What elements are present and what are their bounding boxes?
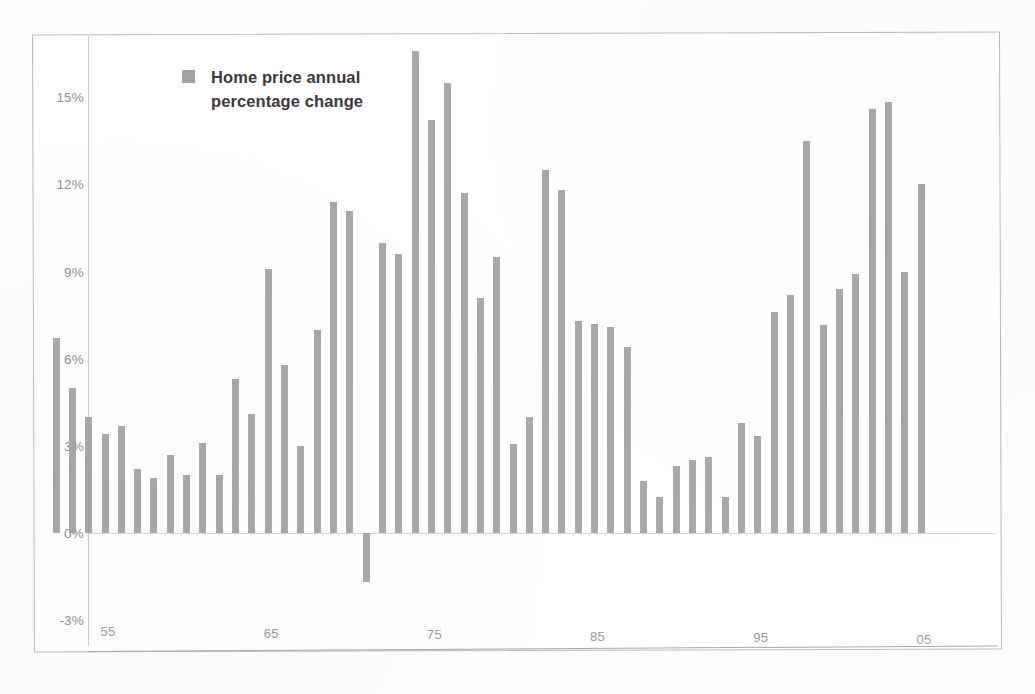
legend-square-icon	[182, 70, 195, 83]
chart-frame	[32, 31, 1002, 652]
scanned-page: 15%12%9%6%3%0%-3% 556575859505 Home pric…	[0, 0, 1035, 694]
chart-legend: Home price annual percentage change	[182, 66, 426, 114]
legend-label: Home price annual percentage change	[211, 66, 426, 114]
